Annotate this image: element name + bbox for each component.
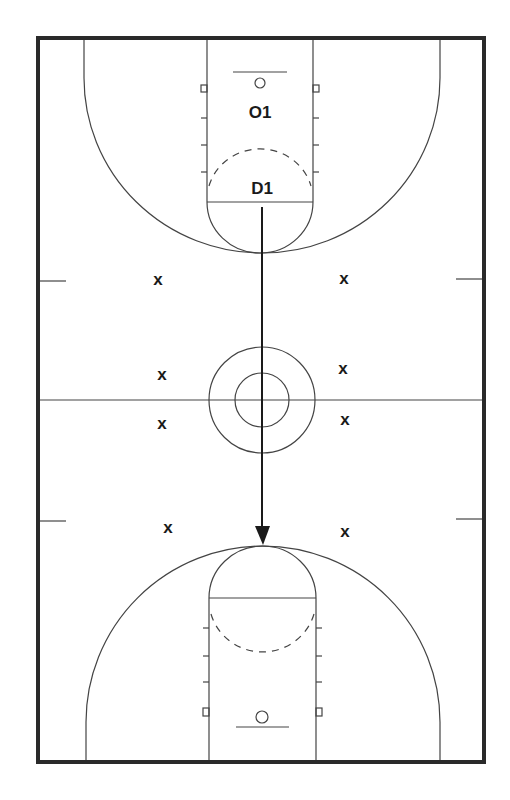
basketball-court-diagram: O1 D1 x x x x x x x x <box>0 0 510 800</box>
marker-x: x <box>157 414 167 433</box>
player-d1: D1 <box>251 179 273 198</box>
marker-x: x <box>153 270 163 289</box>
marker-x: x <box>340 522 350 541</box>
marker-x: x <box>339 269 349 288</box>
marker-x: x <box>157 365 167 384</box>
marker-x: x <box>163 518 173 537</box>
marker-x: x <box>338 359 348 378</box>
player-o1: O1 <box>249 103 272 122</box>
marker-x: x <box>340 410 350 429</box>
